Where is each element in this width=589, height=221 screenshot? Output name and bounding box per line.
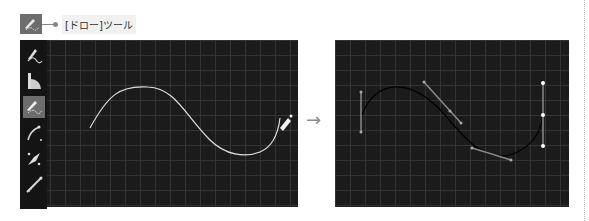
transition-arrow: → bbox=[306, 111, 321, 129]
canvas-before[interactable] bbox=[20, 40, 298, 207]
bezier-result bbox=[335, 40, 569, 207]
callout-label: [ドロー]ツール bbox=[62, 15, 136, 34]
page-divider bbox=[584, 0, 585, 221]
draw-tool-callout: [ドロー]ツール bbox=[20, 14, 136, 34]
canvas-after[interactable] bbox=[335, 40, 569, 207]
freehand-stroke bbox=[20, 40, 298, 207]
pencil-cursor-icon bbox=[280, 115, 293, 132]
callout-leader-line bbox=[42, 24, 56, 25]
draw-tool-icon bbox=[20, 14, 42, 34]
